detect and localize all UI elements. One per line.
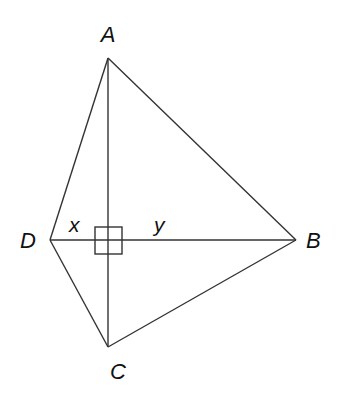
vertex-label-d: D [20,228,36,253]
side-ab [108,58,296,240]
segment-label-y: y [152,213,166,236]
segment-label-x: x [68,213,81,236]
vertex-label-b: B [306,228,321,253]
side-cd [50,240,108,347]
vertex-label-c: C [110,359,126,384]
side-bc [108,240,296,347]
vertex-label-a: A [99,22,116,47]
quadrilateral-diagram: A B C D x y [0,0,339,397]
